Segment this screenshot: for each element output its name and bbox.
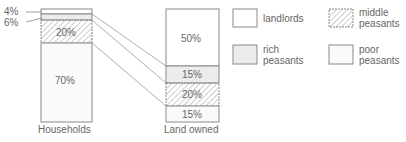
land-poor-label: 15% (182, 109, 202, 120)
legend-poor-label-2: peasants (359, 55, 400, 66)
legend-middle-label-2: peasants (359, 18, 400, 29)
households-landlords-label: 4% (4, 6, 19, 17)
legend-landlords-label: landlords (263, 13, 304, 24)
land-owned-bar (166, 9, 219, 122)
households-rich-segment (41, 14, 92, 20)
legend-rich-label-2: peasants (263, 55, 304, 66)
legend-rich-label-1: rich (263, 44, 279, 55)
households-middle-label: 20% (56, 27, 76, 38)
households-bar (41, 9, 92, 122)
land-middle-label: 20% (182, 89, 202, 100)
households-rich-leader (26, 18, 42, 22)
connector-lines (92, 14, 166, 106)
legend-rich-swatch (233, 45, 257, 64)
land-landlords-label: 50% (181, 33, 201, 44)
legend-middle-swatch (329, 9, 353, 27)
legend-poor-label-1: poor (359, 44, 380, 55)
legend: landlords middle peasants rich peasants … (233, 7, 400, 66)
legend-middle-label-1: middle (359, 7, 389, 18)
legend-poor-swatch (329, 45, 353, 64)
legend-landlords-swatch (233, 9, 257, 27)
households-poor-label: 70% (55, 75, 75, 86)
chart-canvas: 4% 6% 20% 70% Households 50% 15% 20% 15%… (0, 0, 406, 142)
households-landlords-segment (41, 9, 92, 14)
households-rich-label: 6% (4, 17, 19, 28)
households-axis-label: Households (38, 124, 91, 135)
land-rich-label: 15% (182, 69, 202, 80)
land-owned-axis-label: Land owned (164, 124, 219, 135)
